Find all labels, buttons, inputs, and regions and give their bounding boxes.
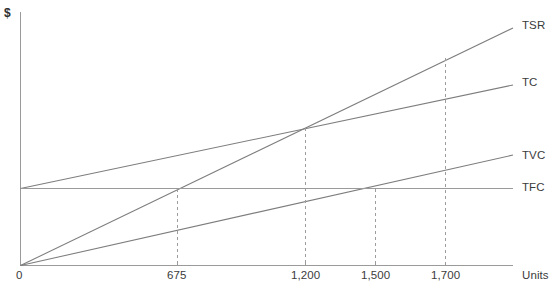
- series-label-tvc: TVC: [522, 149, 545, 162]
- x-tick-label-1200: 1,200: [291, 269, 320, 282]
- x-tick-label-1700: 1,700: [431, 269, 460, 282]
- series-line-tvc: [21, 155, 514, 266]
- series-label-tc: TC: [522, 76, 538, 89]
- x-tick-label-0: 0: [16, 269, 23, 282]
- x-tick-label-1500: 1,500: [361, 269, 390, 282]
- x-axis-label: Units: [522, 269, 549, 282]
- break-even-chart: $ TSR TC TVC TFC 0 675 1,200 1,500 1,700…: [0, 0, 555, 288]
- x-tick-label-675: 675: [167, 269, 187, 282]
- series-label-tsr: TSR: [522, 19, 545, 32]
- y-axis-label: $: [4, 7, 11, 20]
- series-line-tsr: [21, 28, 514, 266]
- chart-canvas: [0, 0, 555, 288]
- series-label-tfc: TFC: [522, 181, 545, 194]
- series-line-tc: [21, 85, 514, 189]
